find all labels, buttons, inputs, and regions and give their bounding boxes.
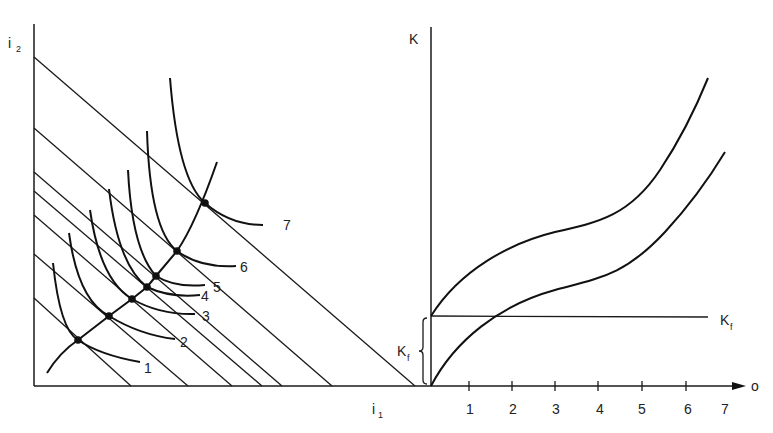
isoquant-6 — [147, 131, 236, 266]
isoquants — [53, 78, 263, 362]
i2-axis-label: i — [8, 35, 11, 51]
tangency-point-7 — [201, 199, 209, 207]
isoquant-3 — [90, 210, 195, 314]
tick-label-3: 3 — [552, 401, 560, 417]
tick-label-2: 2 — [509, 401, 517, 417]
production-cost-diagram: i 2 i 1 — [0, 0, 773, 433]
kf-brace-icon — [419, 318, 427, 384]
i1-axis-label: i — [372, 401, 375, 417]
isoquant-label-5: 5 — [213, 279, 221, 295]
i1-axis-subscript: 1 — [378, 410, 383, 420]
k-axis-label: K — [409, 31, 419, 47]
tangency-point-4 — [143, 283, 151, 291]
isoquant-label-6: 6 — [240, 259, 248, 275]
fixed-cost-subscript: f — [730, 322, 733, 332]
tick-label-7: 7 — [721, 401, 729, 417]
total-cost-curve — [431, 78, 708, 316]
kf-brace-subscript: f — [407, 353, 410, 363]
left-panel: i 2 i 1 — [8, 24, 431, 420]
fixed-cost-line — [431, 316, 708, 317]
tangency-point-2 — [105, 312, 113, 320]
tangency-point-1 — [74, 336, 82, 344]
isoquant-label-2: 2 — [180, 334, 188, 350]
tick-label-1: 1 — [466, 401, 474, 417]
isoquant-7 — [170, 78, 263, 225]
tick-label-5: 5 — [638, 401, 646, 417]
isoquant-label-4: 4 — [201, 288, 209, 304]
tick-label-6: 6 — [684, 401, 692, 417]
isocost-line-2 — [34, 254, 188, 386]
isoquant-label-7: 7 — [283, 217, 291, 233]
i2-axis-subscript: 2 — [16, 44, 21, 54]
fixed-cost-label: K — [720, 312, 730, 328]
tangency-point-3 — [128, 295, 136, 303]
kf-brace-label: K — [397, 343, 407, 359]
isoquant-label-3: 3 — [202, 308, 210, 324]
isoquant-labels: 1 2 3 4 5 6 7 — [144, 217, 291, 376]
right-panel: K o 1 2 3 4 5 6 7 K f K f — [397, 27, 759, 417]
tick-label-4: 4 — [596, 401, 604, 417]
o-axis-label: o — [751, 378, 759, 394]
isoquant-label-1: 1 — [144, 360, 152, 376]
isoquant-1 — [53, 263, 140, 362]
o-axis-tick-labels: 1 2 3 4 5 6 7 — [466, 401, 729, 417]
tangency-point-5 — [152, 272, 160, 280]
tangency-point-6 — [173, 247, 181, 255]
o-axis-arrow-icon — [732, 382, 746, 390]
